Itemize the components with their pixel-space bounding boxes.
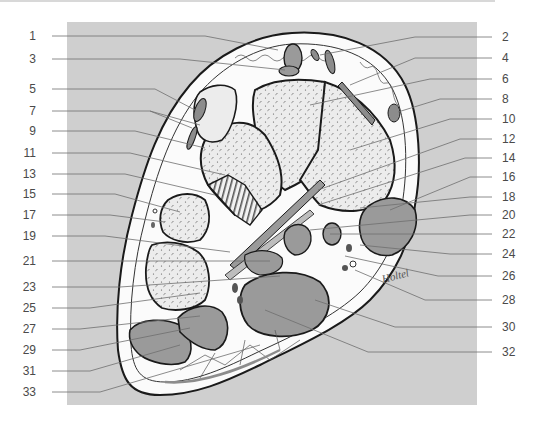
label-19: 19 (16, 230, 36, 242)
label-5: 5 (16, 83, 36, 95)
label-13: 13 (16, 168, 36, 180)
bone-sustentaculum (160, 194, 209, 242)
label-24: 24 (502, 248, 515, 260)
label-23: 23 (16, 281, 36, 293)
bone-medial-lower (146, 242, 209, 310)
label-29: 29 (16, 344, 36, 356)
label-25: 25 (16, 302, 36, 314)
label-15: 15 (16, 188, 36, 200)
label-10: 10 (502, 113, 515, 125)
cross-section-illustration: Holtel (0, 0, 539, 430)
label-20: 20 (502, 209, 515, 221)
label-7: 7 (16, 105, 36, 117)
label-6: 6 (502, 73, 509, 85)
label-26: 26 (502, 270, 515, 282)
label-1: 1 (16, 30, 36, 42)
label-22: 22 (502, 228, 515, 240)
label-30: 30 (502, 321, 515, 333)
label-9: 9 (16, 125, 36, 137)
label-3: 3 (16, 53, 36, 65)
label-14: 14 (502, 152, 515, 164)
label-4: 4 (502, 52, 509, 64)
label-21: 21 (16, 255, 36, 267)
label-27: 27 (16, 323, 36, 335)
label-11: 11 (16, 147, 36, 159)
label-17: 17 (16, 209, 36, 221)
label-2: 2 (502, 31, 509, 43)
muscle-abductor-digiti-minimi (359, 198, 416, 255)
label-8: 8 (502, 93, 509, 105)
muscle-quadratus-plantae (240, 273, 329, 337)
label-16: 16 (502, 171, 515, 183)
label-18: 18 (502, 191, 515, 203)
label-31: 31 (16, 365, 36, 377)
label-12: 12 (502, 133, 515, 145)
label-32: 32 (502, 346, 515, 358)
label-28: 28 (502, 294, 515, 306)
label-33: 33 (16, 386, 36, 398)
